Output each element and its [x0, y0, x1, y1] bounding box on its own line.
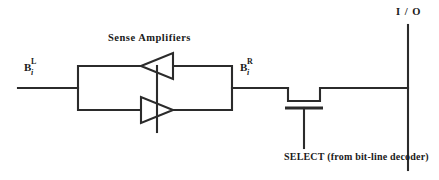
pass-transistor-channel-path [288, 88, 408, 101]
sense-amplifiers-label: Sense Amplifiers [108, 33, 191, 44]
left-bit-line-term: B L i [24, 62, 31, 73]
left-bit-line-label: B L i [24, 62, 31, 73]
sense-amplifier-circuit-figure: Sense Amplifiers I / O SELECT (from bit-… [0, 0, 439, 180]
left-bit-line-superscript: L [31, 58, 36, 66]
right-bit-line-subscript: i [247, 69, 249, 77]
select-label: SELECT (from bit-line decoder) [284, 152, 429, 162]
left-bit-line-subscript: i [31, 69, 33, 77]
io-label: I / O [396, 7, 421, 18]
right-bit-line-term: B R i [240, 62, 247, 73]
right-bit-line-superscript: R [247, 58, 253, 66]
right-bit-line-label: B R i [240, 62, 247, 73]
